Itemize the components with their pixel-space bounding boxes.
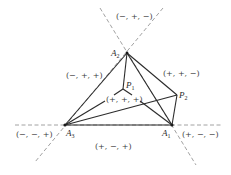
segment-p1-toward-a1 bbox=[140, 101, 172, 125]
region-label-left-lower: (−, −, +) bbox=[16, 130, 53, 139]
label-p1: P1 bbox=[125, 80, 135, 91]
region-label-bottom: (+, −, +) bbox=[95, 142, 132, 151]
region-label-center: (+, +, +) bbox=[106, 95, 143, 104]
region-label-top: (−, +, −) bbox=[116, 12, 153, 21]
segment-a3-toward-p1 bbox=[65, 101, 105, 125]
label-p2: P2 bbox=[178, 90, 188, 101]
region-label-right-upper: (+, +, −) bbox=[163, 69, 200, 78]
region-label-left-upper: (−, +, +) bbox=[66, 71, 103, 80]
label-a3: A3 bbox=[65, 128, 75, 139]
label-a1: A1 bbox=[161, 128, 171, 139]
region-label-right-lower: (+, −, −) bbox=[182, 130, 219, 139]
edge-a3-a2 bbox=[65, 53, 127, 125]
segment-p2-a1 bbox=[172, 95, 177, 125]
triangle-diagram: A2 P1 P2 A3 A1 (−, +, −) (−, +, +) (+, +… bbox=[0, 0, 231, 175]
vertex-a1-dot bbox=[170, 123, 173, 126]
vertex-a3-dot bbox=[63, 123, 66, 126]
vertex-a2-dot bbox=[126, 52, 129, 55]
label-a2: A2 bbox=[110, 48, 120, 59]
